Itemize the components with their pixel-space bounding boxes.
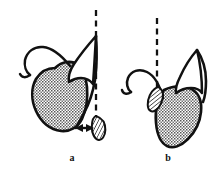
panel-a-label: a <box>70 152 75 163</box>
panel-b-label: b <box>165 152 171 163</box>
anatomical-two-panel-figure: a b <box>0 0 222 171</box>
figure-root: a b <box>0 0 222 171</box>
